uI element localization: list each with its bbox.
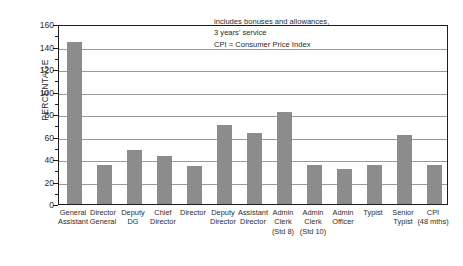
- bar: [397, 135, 412, 204]
- bar: [97, 165, 112, 204]
- annotation-line: includes bonuses and allowances,: [214, 16, 329, 27]
- y-tick-label: 20: [24, 178, 54, 188]
- y-tick-label: 100: [24, 88, 54, 98]
- annotation-line: 3 years' service: [214, 27, 329, 38]
- bar: [367, 165, 382, 204]
- x-tick-label-line: Director: [140, 217, 186, 226]
- bar: [67, 42, 82, 204]
- y-tick-label: 60: [24, 133, 54, 143]
- bar: [247, 133, 262, 204]
- x-tick-label-line: CPI: [410, 208, 456, 217]
- bar: [427, 165, 442, 204]
- bar: [337, 169, 352, 204]
- bar-chart-figure: PERCENTAGE 020406080100120140160 include…: [0, 0, 463, 266]
- x-tick-label: CPI(48 mths): [410, 208, 456, 227]
- y-tick-mark: [53, 205, 58, 206]
- bar: [277, 112, 292, 204]
- bar: [307, 165, 322, 204]
- y-tick-label: 40: [24, 155, 54, 165]
- bar: [127, 150, 142, 204]
- x-axis-tick-labels: GeneralAssistantDirectorGeneralDeputyDGC…: [58, 208, 448, 264]
- bar: [157, 156, 172, 204]
- bar: [217, 125, 232, 204]
- plot-area: [58, 25, 448, 205]
- x-tick-label-line: (48 mths): [410, 217, 456, 226]
- y-tick-label: 140: [24, 43, 54, 53]
- annotation-line: CPI = Consumer Price Index: [214, 39, 329, 50]
- bar: [187, 166, 202, 204]
- bars-layer: [59, 26, 447, 204]
- y-axis-tick-labels: 020406080100120140160: [24, 25, 54, 205]
- y-tick-label: 120: [24, 65, 54, 75]
- y-tick-label: 160: [24, 20, 54, 30]
- y-tick-label: 80: [24, 110, 54, 120]
- x-tick-label-line: (Std 10): [290, 227, 336, 236]
- x-tick-label-line: Officer: [320, 217, 366, 226]
- annotation-note: includes bonuses and allowances,3 years'…: [214, 16, 329, 50]
